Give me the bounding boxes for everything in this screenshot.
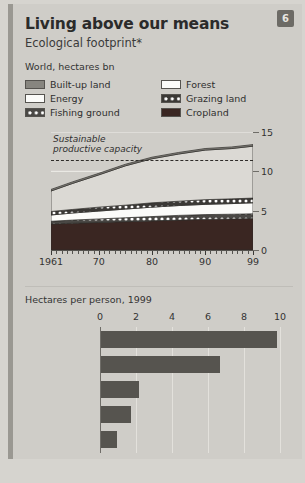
sustainable-capacity-dashed-line: [51, 160, 253, 161]
bar-chart-x-tick-label: 6: [205, 311, 211, 322]
cropland-swatch-icon: [161, 108, 181, 117]
area-chart-x-tick-label: 70: [93, 256, 105, 267]
area-chart-x-tick-label: 99: [247, 256, 259, 267]
section-divider: [25, 286, 293, 287]
legend-item-fishing-ground: Fishing ground: [25, 106, 157, 119]
legend-label: Forest: [186, 80, 215, 90]
bar-chart-bar: [101, 381, 139, 398]
sustainable-capacity-annotation: Sustainable productive capacity: [53, 134, 142, 155]
bar-chart-category-label: China: [0, 410, 28, 420]
fishing-ground-swatch-icon: [25, 108, 45, 117]
bar-chart-category-line: countries: [0, 391, 28, 401]
energy-swatch-icon: [25, 94, 45, 103]
page-subtitle: Ecological footprint*: [25, 36, 142, 50]
legend-item-built-up-land: Built-up land: [25, 78, 157, 91]
bar-chart-bar: [101, 406, 131, 423]
bar-chart-bar: [101, 356, 220, 373]
annotation-line-1: Sustainable: [53, 134, 142, 144]
bar-chart-category-line: countries: [0, 441, 28, 451]
forest-swatch-icon: [161, 80, 181, 89]
bar-chart-x-tick-label: 2: [133, 311, 139, 322]
bar-chart-x-tick-label: 8: [241, 311, 247, 322]
bar-chart-x-tick-label: 4: [169, 311, 175, 322]
area-chart-x-tick-label: 80: [146, 256, 158, 267]
legend-label: Grazing land: [186, 94, 246, 104]
bar-chart-category-line: China: [0, 410, 28, 420]
area-chart-y-tick: [253, 250, 259, 251]
bar-chart-bar: [101, 431, 117, 448]
legend-item-cropland: Cropland: [161, 106, 293, 119]
bar-chart-bar: [101, 331, 277, 348]
legend-item-grazing-land: Grazing land: [161, 92, 293, 105]
grazing-land-swatch-icon: [161, 94, 181, 103]
legend-label: Energy: [50, 94, 83, 104]
area-chart-y-tick-label: 5: [261, 205, 267, 216]
page-title: Living above our means: [25, 15, 229, 33]
chart-number-badge: 6: [277, 10, 294, 27]
bar-chart-category-label: Middle-incomecountries: [0, 381, 28, 401]
bar-chart-units-label: Hectares per person, 1999: [25, 294, 152, 305]
area-chart-y-tick-label: 10: [261, 166, 273, 177]
legend-label: Built-up land: [50, 80, 111, 90]
area-chart-y-tick-label: 15: [261, 127, 273, 138]
legend-item-energy: Energy: [25, 92, 157, 105]
bar-chart-category-line: Middle-income: [0, 381, 28, 391]
area-chart-x-tick-label: 90: [199, 256, 211, 267]
area-chart-x-ticks: [51, 251, 253, 255]
area-chart-y-tick: [253, 211, 259, 212]
area-chart-legend: Built-up land Forest Energy Grazing land…: [25, 78, 293, 119]
bar-chart-category-line: countries: [0, 366, 28, 376]
bar-chart-category-line: Low-income: [0, 431, 28, 441]
area-chart-y-tick: [253, 132, 259, 133]
bar-chart-category-label: United States: [0, 335, 28, 345]
bar-chart-category-label: Low-incomecountries: [0, 431, 28, 451]
area-chart-units-label: World, hectares bn: [25, 61, 114, 72]
legend-label: Fishing ground: [50, 108, 120, 118]
legend-item-forest: Forest: [161, 78, 293, 91]
bar-chart-x-tick-label: 0: [97, 311, 103, 322]
bar-chart-category-label: High-incomecountries: [0, 356, 28, 376]
area-chart-y-tick-label: 0: [261, 245, 267, 256]
legend-label: Cropland: [186, 108, 229, 118]
built-up-land-swatch-icon: [25, 80, 45, 89]
hectares-per-person-bar-chart: 0246810United StatesHigh-incomecountries…: [25, 309, 293, 457]
bar-chart-plot: 0246810United StatesHigh-incomecountries…: [100, 327, 280, 453]
ecological-footprint-area-chart: Sustainable productive capacity 05101519…: [25, 122, 293, 272]
area-chart-x-tick-label: 1961: [39, 256, 63, 267]
bar-chart-x-tick-label: 10: [274, 311, 286, 322]
chart-panel: Living above our means Ecological footpr…: [8, 4, 302, 459]
bar-chart-category-line: High-income: [0, 356, 28, 366]
area-chart-y-tick: [253, 171, 259, 172]
bar-chart-gridline: [280, 327, 281, 453]
bar-chart-category-line: United States: [0, 335, 28, 345]
annotation-line-2: productive capacity: [53, 144, 142, 154]
